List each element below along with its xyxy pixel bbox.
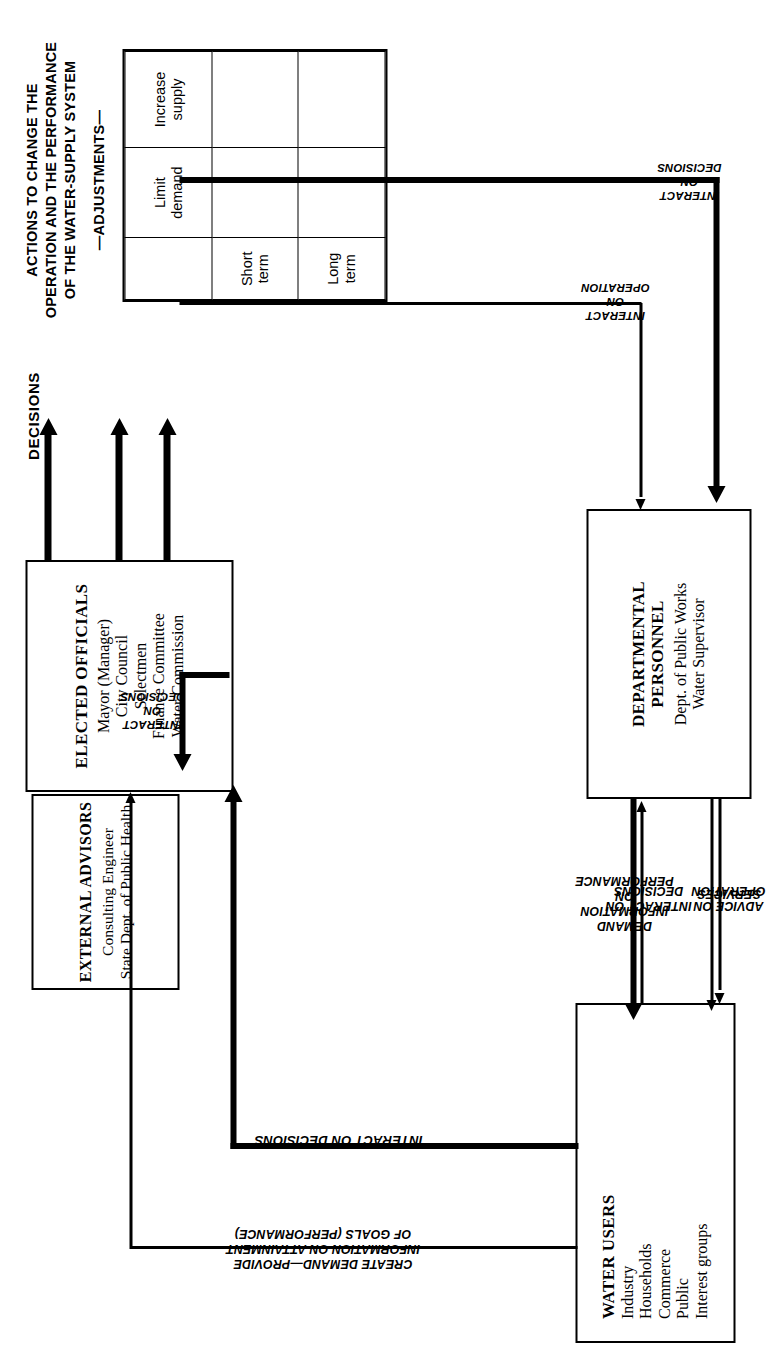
advisors-dept-vertical	[179, 177, 719, 183]
matrix-cell-short-limit	[211, 147, 298, 238]
external-advisors-title: EXTERNAL ADVISORS	[76, 796, 95, 988]
water-users-item-1: Households	[637, 1005, 656, 1319]
water-users-item-0: Industry	[618, 1005, 637, 1319]
headline-line-1: ACTIONS TO CHANGE THE	[22, 30, 41, 330]
label-interact-on-operation: INTERACT ON OPERATION	[568, 280, 662, 322]
decisions-arrow-3-head	[158, 418, 176, 435]
water-users-item-2: Commerce	[656, 1005, 675, 1319]
decisions-arrow-1-head	[39, 418, 57, 435]
departmental-personnel-title-line-2: PERSONNEL	[648, 511, 668, 797]
water-users-item-3: Public	[674, 1005, 693, 1319]
table-row: Limit demand Increase supply	[125, 52, 212, 300]
label-advisors-interact-on-decisions: INTERACT ON DECISIONS	[105, 689, 199, 731]
decisions-arrow-1-shaft	[44, 433, 51, 560]
figure-headline: ACTIONS TO CHANGE THE OPERATION AND THE …	[22, 30, 79, 330]
decisions-arrow-3-shaft	[163, 433, 170, 560]
matrix-row-header-long-term: Long term	[298, 238, 385, 300]
decisions-arrow-2-head	[110, 418, 128, 435]
elected-officials-item-1: City Council	[113, 562, 132, 790]
water-users-item-4: Interest groups	[693, 1005, 712, 1319]
create-demand-arrowhead	[125, 792, 135, 803]
elected-officials-item-3: Finance Committee	[150, 562, 169, 790]
elected-officials-item-0: Mayor (Manager)	[94, 562, 113, 790]
water-users-title: WATER USERS	[599, 1005, 619, 1319]
adjustments-label: —ADJUSTMENTS—	[90, 30, 106, 330]
headline-line-2: OPERATION AND THE PERFORMANCE	[41, 30, 60, 330]
adjustments-matrix: Limit demand Increase supply Short term …	[122, 49, 387, 302]
table-row: Long term	[298, 52, 385, 300]
box-water-users[interactable]: WATER USERS Industry Households Commerce…	[575, 1003, 735, 1343]
interact-on-operation-arrowhead	[635, 499, 645, 510]
create-demand-horizontal-segment	[129, 802, 132, 1249]
departmental-personnel-title-line-1: DEPARTMENTAL	[628, 511, 648, 797]
dept-interact-arrowhead	[624, 1003, 642, 1020]
advisors-dept-horizontal	[713, 177, 719, 486]
external-advisors-item-0: Consulting Engineer	[98, 796, 116, 988]
services-arrowhead	[714, 993, 724, 1004]
matrix-cell-long-limit	[298, 147, 385, 238]
users-interact-horizontal-segment	[230, 799, 236, 1149]
label-create-demand: CREATE DEMAND—PROVIDE INFORMATION ON ATT…	[218, 1226, 428, 1271]
label-services: SERVICES	[679, 886, 770, 901]
departmental-personnel-item-0: Dept. of Public Works	[672, 511, 691, 797]
matrix-cell-long-increase	[298, 52, 385, 148]
matrix-corner-cell	[125, 238, 212, 300]
label-advisors-dept-interact-on-decisions: INTERACT ON DECISIONS	[642, 160, 736, 202]
table-row: Short term	[211, 52, 298, 300]
departmental-personnel-item-1: Water Supervisor	[690, 511, 709, 797]
elected-officials-item-2: Selectmen	[131, 562, 150, 790]
matrix-col-header-increase-supply: Increase supply	[125, 52, 212, 148]
headline-line-3: OF THE WATER-SUPPLY SYSTEM	[60, 30, 79, 330]
matrix-col-header-limit-demand: Limit demand	[125, 147, 212, 238]
advisors-dept-arrowhead	[707, 486, 725, 503]
interact-on-operation-horizontal	[639, 303, 642, 497]
advisors-interact-arrowhead	[173, 754, 191, 771]
demand-information-arrowhead	[636, 801, 646, 812]
decisions-arrow-2-shaft	[115, 433, 122, 560]
label-demand-information: DEMAND INFORMATION ON PERFORMANCE	[564, 873, 684, 933]
decisions-label: DECISIONS	[24, 356, 41, 476]
elected-officials-title: ELECTED OFFICIALS	[71, 562, 91, 790]
box-external-advisors[interactable]: EXTERNAL ADVISORS Consulting Engineer St…	[31, 794, 179, 990]
matrix-cell-short-increase	[211, 52, 298, 148]
matrix-row-header-short-term: Short term	[211, 238, 298, 300]
box-departmental-personnel[interactable]: DEPARTMENTAL PERSONNEL Dept. of Public W…	[586, 509, 751, 799]
advisors-interact-vertical-segment	[179, 672, 229, 678]
users-interact-arrowhead	[224, 785, 242, 802]
label-users-interact-on-decisions: INTERACT ON DECISIONS	[238, 1132, 438, 1148]
